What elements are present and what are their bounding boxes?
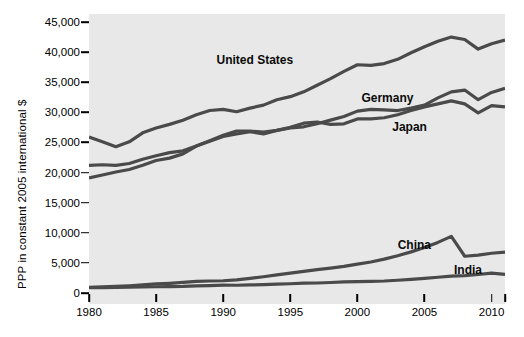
chart-container: PPP in constant 2005 international $ 05,… [0,0,524,337]
series-label-united-states: United States [216,53,293,67]
series-line-china [89,236,505,287]
series-line-india [89,273,505,288]
data-lines [0,0,524,337]
series-label-germany: Germany [361,91,413,105]
series-line-united-states [89,37,505,147]
series-label-japan: Japan [392,120,427,134]
series-label-china: China [398,238,431,252]
series-line-japan [89,101,505,178]
series-label-india: India [454,263,482,277]
